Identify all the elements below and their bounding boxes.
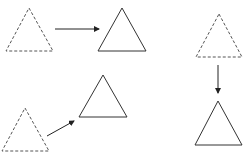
tri-c-original-triangle xyxy=(2,108,49,151)
tri-c-image-triangle xyxy=(79,75,127,117)
arrows-layer xyxy=(47,29,218,136)
tri-b-original-triangle xyxy=(196,14,242,57)
diagram-canvas xyxy=(0,0,248,165)
tri-b-image-triangle xyxy=(195,101,242,145)
tri-a-image-triangle xyxy=(98,8,146,51)
shapes-layer xyxy=(2,8,242,151)
arrow-up-right-icon xyxy=(47,121,74,136)
diagram-svg xyxy=(0,0,248,165)
tri-a-original-triangle xyxy=(6,8,53,51)
